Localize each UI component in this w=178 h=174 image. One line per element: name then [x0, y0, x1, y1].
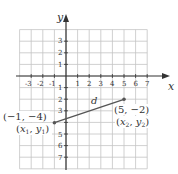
y-tick-label: 2 — [58, 96, 62, 104]
x-tick-labels: -3 -2 -1 1 2 3 4 5 6 7 — [25, 80, 149, 88]
x-axis-label: x — [168, 80, 175, 93]
y-tick-label: 6 — [58, 142, 63, 150]
point-2-label: (5, −2) (x2, y2) — [113, 104, 151, 128]
x-tick-label: 1 — [76, 80, 80, 88]
point-2-symbolic: (x2, y2) — [116, 116, 149, 128]
y-tick-label: 1 — [58, 84, 62, 92]
x-tick-label: 6 — [134, 80, 139, 88]
x-tick-label: 7 — [145, 80, 149, 88]
y-tick-labels: 3 2 1 1 2 3 5 6 7 — [58, 37, 63, 162]
x-tick-label: -3 — [25, 80, 32, 88]
x-axis-arrow-icon — [162, 73, 170, 79]
x-tick-label: 5 — [122, 80, 126, 88]
grid — [20, 30, 148, 169]
point-2-marker — [122, 98, 126, 102]
x-tick-label: 4 — [110, 80, 115, 88]
x-tick-label: -1 — [49, 80, 56, 88]
y-axis-label: y — [56, 11, 64, 24]
point-1-symbolic: (x1, y1) — [16, 123, 49, 135]
y-tick-label: 7 — [58, 154, 62, 162]
y-tick-label: 2 — [58, 49, 62, 57]
y-tick-label: 5 — [58, 131, 62, 139]
point-1-marker — [53, 121, 57, 125]
x-tick-label: 3 — [99, 80, 103, 88]
y-tick-label: 3 — [58, 107, 62, 115]
coordinate-plane: x y -3 -2 -1 1 2 3 4 5 6 7 3 2 1 1 2 3 5… — [0, 0, 178, 174]
point-1-label: (−1, −4) (x1, y1) — [2, 111, 52, 135]
x-tick-label: -2 — [37, 80, 44, 88]
y-axis-arrow-icon — [63, 14, 69, 22]
y-tick-label: 3 — [58, 37, 62, 45]
segment-label: d — [91, 95, 97, 106]
x-tick-label: 2 — [87, 80, 91, 88]
point-1-coords: (−1, −4) — [3, 111, 47, 122]
y-tick-label: 1 — [58, 61, 62, 69]
point-2-coords: (5, −2) — [114, 104, 149, 115]
